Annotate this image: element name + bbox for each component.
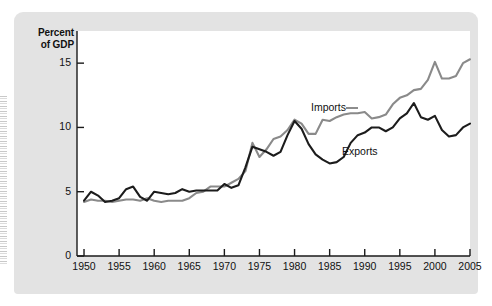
series-line-exports	[84, 103, 470, 202]
x-tick-label-1990: 1990	[348, 260, 382, 272]
x-tick-label-1980: 1980	[278, 260, 312, 272]
x-tick-label-1950: 1950	[67, 260, 101, 272]
y-tick-label-10: 10	[45, 120, 71, 132]
x-tick-label-1960: 1960	[137, 260, 171, 272]
series-line-imports	[84, 59, 470, 202]
x-tick-label-2005: 2005	[453, 260, 487, 272]
x-tick-label-1965: 1965	[172, 260, 206, 272]
series-label-exports: Exports	[342, 145, 378, 157]
x-tick-label-1975: 1975	[242, 260, 276, 272]
chart-svg	[14, 12, 478, 294]
axes	[77, 31, 470, 256]
figure-panel: Percent of GDP 051015 195019551960196519…	[14, 12, 478, 294]
x-tick-label-2000: 2000	[418, 260, 452, 272]
x-tick-marks	[84, 249, 470, 256]
data-series-group	[84, 59, 470, 202]
y-tick-label-15: 15	[45, 56, 71, 68]
scan-edge-artifact	[0, 96, 7, 264]
y-tick-marks	[77, 63, 84, 256]
x-tick-label-1970: 1970	[207, 260, 241, 272]
x-tick-label-1985: 1985	[313, 260, 347, 272]
x-tick-label-1955: 1955	[102, 260, 136, 272]
y-tick-label-5: 5	[45, 185, 71, 197]
series-label-imports: Imports	[311, 101, 346, 113]
x-tick-label-1995: 1995	[383, 260, 417, 272]
